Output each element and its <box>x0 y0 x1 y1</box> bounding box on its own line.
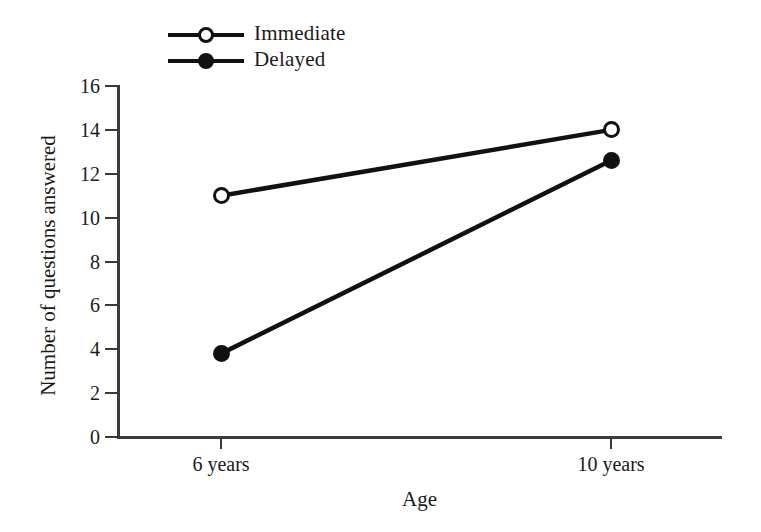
plot-area: 0246810121416 6 years10 years Number of … <box>0 0 761 532</box>
series-line-delayed <box>221 161 611 354</box>
line-chart-figure: Immediate Delayed 0246810121416 6 years1… <box>0 0 761 532</box>
series-lines <box>0 0 761 532</box>
series-line-immediate <box>221 130 611 196</box>
